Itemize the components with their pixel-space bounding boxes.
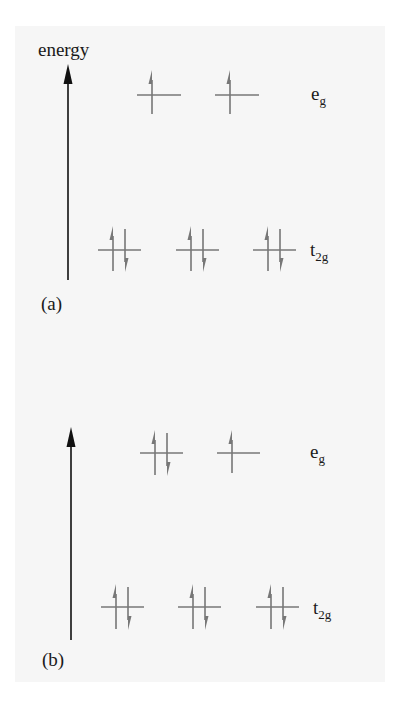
orbital-a-eg-1: [137, 70, 181, 114]
level-subscript: 2g: [315, 249, 328, 264]
level-label-b-eg: eg: [310, 442, 325, 461]
level-subscript: g: [319, 93, 326, 108]
level-label-a-eg: eg: [311, 84, 326, 103]
orbital-a-eg-2: [215, 70, 259, 114]
arrow-up-icon: [64, 64, 73, 84]
orbital-a-t2g-2: [176, 226, 219, 272]
orbital-a-t2g-1: [98, 226, 141, 272]
level-subscript: 2g: [318, 607, 331, 622]
orbital-b-t2g-2: [178, 584, 221, 630]
panel-caption-a: (a): [41, 294, 62, 313]
orbital-b-eg-2: [217, 430, 260, 473]
energy-axis-a: [64, 64, 73, 280]
orbital-diagram: [0, 0, 402, 704]
level-label-a-t2g: t2g: [310, 240, 328, 259]
arrow-up-icon: [67, 427, 76, 447]
energy-axis-b: [67, 427, 76, 640]
orbital-b-t2g-3: [256, 584, 299, 630]
orbital-b-eg-1: [140, 430, 183, 476]
level-subscript: g: [318, 451, 325, 466]
level-label-b-t2g: t2g: [313, 598, 331, 617]
energy-axis-label: energy: [38, 40, 89, 59]
panel-caption-b: (b): [42, 650, 64, 669]
orbital-b-t2g-1: [101, 584, 144, 630]
orbital-a-t2g-3: [253, 226, 296, 272]
